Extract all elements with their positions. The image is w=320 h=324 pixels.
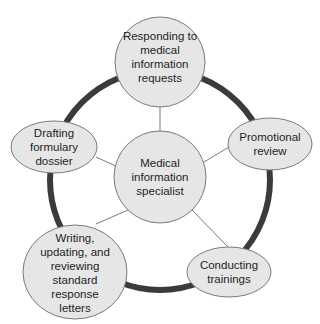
- node-responding-label-4: requests: [138, 72, 182, 84]
- connector-promotional: [204, 147, 229, 162]
- center-label-3: specialist: [136, 185, 184, 197]
- connector-writing: [96, 210, 128, 224]
- node-responding: Responding to medical information reques…: [115, 17, 205, 107]
- node-drafting: Drafting formulary dossier: [11, 121, 97, 173]
- node-promotional-label-1: Promotional: [239, 131, 300, 143]
- node-writing-label-1: Writing,: [56, 232, 95, 244]
- connector-trainings: [192, 210, 228, 247]
- diagram-canvas: Responding to medical information reques…: [0, 0, 320, 324]
- node-drafting-label-2: formulary: [30, 141, 78, 153]
- node-drafting-label-1: Drafting: [34, 127, 74, 139]
- node-writing-label-2: updating, and: [40, 246, 110, 258]
- node-writing-label-4: standard: [53, 274, 98, 286]
- node-trainings-label-1: Conducting: [200, 259, 258, 271]
- node-drafting-label-3: dossier: [35, 155, 72, 167]
- node-responding-label-2: medical: [140, 44, 180, 56]
- node-writing-label-3: reviewing: [51, 260, 100, 272]
- node-promotional: Promotional review: [228, 118, 312, 170]
- center-label-2: information: [132, 171, 189, 183]
- node-writing-label-6: letters: [59, 302, 91, 314]
- node-trainings: Conducting trainings: [187, 247, 271, 297]
- node-promotional-label-2: review: [253, 145, 287, 157]
- node-writing: Writing, updating, and reviewing standar…: [23, 225, 127, 319]
- connector-drafting: [96, 157, 118, 167]
- node-responding-label-1: Responding to: [123, 30, 197, 42]
- node-trainings-label-2: trainings: [207, 273, 251, 285]
- node-responding-label-3: information: [132, 58, 189, 70]
- center-label-1: Medical: [140, 157, 180, 169]
- node-writing-label-5: response: [51, 288, 98, 300]
- node-center-hub: Medical information specialist: [114, 131, 206, 223]
